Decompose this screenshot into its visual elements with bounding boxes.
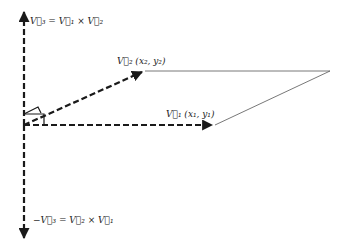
v3-label: V⃗₃ = V⃗₁ × V⃗₂ [30, 17, 103, 26]
v2-label: V⃗₂ (x₂, y₂) [117, 57, 166, 66]
v1-label: V⃗₁ (x₁, y₁) [166, 110, 215, 119]
right-angle-marker-v2 [24, 107, 41, 114]
neg-v3-label: −V⃗₃ = V⃗₂ × V⃗₁ [33, 216, 114, 225]
parallelogram-right-edge [215, 71, 330, 125]
v2-vector [24, 72, 142, 125]
